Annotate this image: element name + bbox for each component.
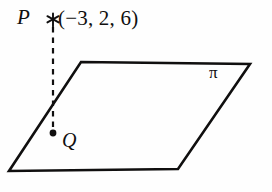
plane-pi-label: π — [209, 64, 218, 81]
point-q-label: Q — [62, 130, 76, 150]
point-q-marker — [50, 130, 57, 137]
point-p-label: P — [17, 7, 30, 28]
geometry-figure: P (−3, 2, 6) Q π — [0, 0, 272, 192]
point-p-coordinates-label: (−3, 2, 6) — [58, 8, 138, 29]
point-p-marker — [47, 14, 58, 27]
